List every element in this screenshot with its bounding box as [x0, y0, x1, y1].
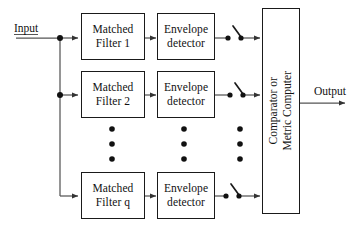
envelope-detector-1-line2: detector — [167, 37, 205, 51]
ellipsis-dot — [109, 156, 115, 162]
switch-contacts — [223, 35, 245, 198]
envelope-detector-1-block: Envelope detector — [157, 13, 215, 60]
matched-filter-q-line2: Filter q — [96, 196, 130, 210]
comparator-label-line2: Metric Computer — [281, 71, 295, 151]
switch-blade-1 — [233, 26, 241, 37]
output-label: Output — [314, 85, 346, 97]
matched-filter-2-line1: Matched — [93, 81, 134, 95]
ellipsis-dot — [237, 126, 243, 132]
ellipsis-dot — [109, 141, 115, 147]
switch-contact-right-q — [236, 193, 241, 198]
switch-contact-right-1 — [238, 35, 243, 40]
switch-contact-left-2 — [227, 92, 232, 97]
junction-dot-1 — [57, 35, 63, 41]
matched-filter-2-block: Matched Filter 2 — [81, 71, 145, 118]
ellipsis-dot — [237, 156, 243, 162]
matched-filter-1-line2: Filter 1 — [96, 37, 130, 51]
matched-filter-1-block: Matched Filter 1 — [81, 13, 145, 60]
comparator-label: Comparator or Metric Computer — [267, 71, 295, 151]
switch-contact-right-2 — [240, 92, 245, 97]
ellipsis-dot — [181, 156, 187, 162]
matched-filter-q-line1: Matched — [93, 182, 134, 196]
envelope-detector-2-line2: detector — [167, 95, 205, 109]
ellipsis-dots — [109, 126, 243, 162]
envelope-detector-2-line1: Envelope — [164, 81, 208, 95]
diagram-canvas: Input Matched Filter 1 Matched Filter 2 … — [0, 0, 356, 226]
switch-blade-2 — [235, 83, 243, 94]
switch-contact-left-1 — [225, 35, 230, 40]
switch-blade-q — [231, 184, 239, 195]
input-label: Input — [14, 22, 38, 35]
matched-filter-q-block: Matched Filter q — [81, 172, 145, 219]
ellipsis-dot — [181, 141, 187, 147]
switch-contact-left-q — [223, 193, 228, 198]
comparator-metric-computer-block: Comparator or Metric Computer — [262, 8, 300, 214]
junction-dot-2 — [57, 92, 63, 98]
envelope-detector-q-line2: detector — [167, 196, 205, 210]
envelope-detector-2-block: Envelope detector — [157, 71, 215, 118]
comparator-label-line1: Comparator or — [267, 71, 281, 151]
matched-filter-1-line1: Matched — [93, 23, 134, 37]
envelope-detector-1-line1: Envelope — [164, 23, 208, 37]
envelope-detector-q-block: Envelope detector — [157, 172, 215, 219]
matched-filter-2-line2: Filter 2 — [96, 95, 130, 109]
envelope-detector-q-line1: Envelope — [164, 182, 208, 196]
ellipsis-dot — [237, 141, 243, 147]
ellipsis-dot — [109, 126, 115, 132]
ellipsis-dot — [181, 126, 187, 132]
